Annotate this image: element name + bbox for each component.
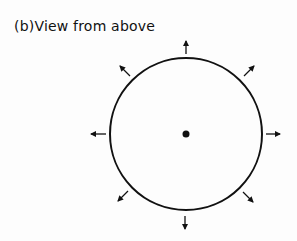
center-dot — [183, 131, 190, 138]
arrow-up-right-icon — [244, 66, 254, 76]
arrow-down-left-icon — [118, 191, 128, 201]
top-view-diagram — [0, 0, 297, 241]
arrow-down-right-icon — [243, 192, 253, 202]
arrow-up-left-icon — [120, 66, 130, 76]
